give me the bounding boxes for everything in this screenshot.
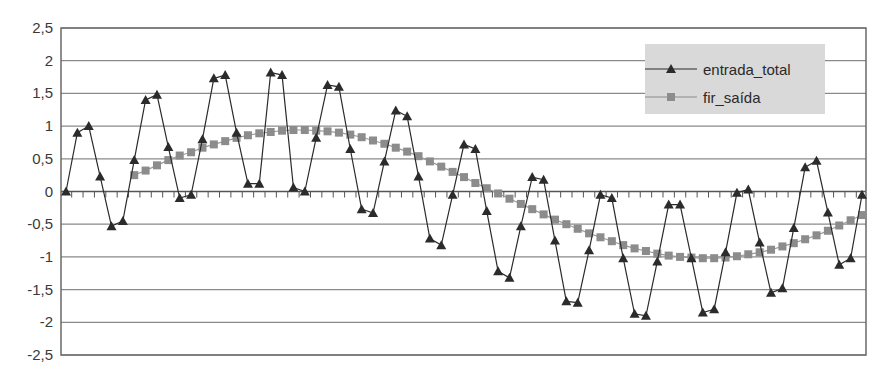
triangle-marker (402, 111, 412, 120)
triangle-marker (288, 183, 298, 192)
triangle-marker (527, 172, 537, 181)
triangle-marker (482, 206, 492, 215)
svg-text:2: 2 (45, 52, 53, 69)
svg-text:1,5: 1,5 (32, 84, 53, 101)
square-marker (176, 152, 184, 160)
svg-text:-1,5: -1,5 (27, 281, 53, 298)
triangle-marker (504, 273, 514, 282)
square-marker (494, 189, 502, 197)
triangle-marker (266, 67, 276, 76)
square-line-icon (645, 91, 697, 103)
square-marker (244, 131, 252, 139)
legend-item-entrada-total: entrada_total (645, 58, 791, 80)
square-marker (483, 184, 491, 192)
triangle-marker (709, 304, 719, 313)
square-marker (153, 161, 161, 169)
square-marker (426, 157, 434, 165)
triangle-marker (812, 156, 822, 165)
triangle-marker (414, 171, 424, 180)
square-marker (847, 216, 855, 224)
square-marker (210, 140, 218, 148)
square-marker (358, 133, 366, 141)
square-marker (710, 254, 718, 262)
triangle-marker (516, 221, 526, 230)
svg-text:2,5: 2,5 (32, 19, 53, 36)
svg-text:-2,5: -2,5 (27, 346, 53, 363)
triangle-marker (493, 266, 503, 275)
triangle-marker (197, 134, 207, 143)
triangle-marker (561, 296, 571, 305)
square-marker (528, 205, 536, 213)
triangle-marker (129, 155, 139, 164)
square-marker (301, 126, 309, 134)
triangle-marker (800, 162, 810, 171)
series-fir-saida (130, 126, 866, 262)
triangle-marker (721, 247, 731, 256)
svg-text:-1: -1 (40, 248, 53, 265)
triangle-marker (323, 80, 333, 89)
square-marker (517, 200, 525, 208)
svg-text:-0,5: -0,5 (27, 215, 53, 232)
triangle-marker (436, 240, 446, 249)
triangle-marker (652, 256, 662, 265)
square-marker (437, 163, 445, 171)
triangle-marker (152, 90, 162, 99)
square-marker (221, 137, 229, 145)
square-marker (767, 246, 775, 254)
triangle-marker (141, 95, 151, 104)
triangle-marker (345, 144, 355, 153)
square-marker (460, 173, 468, 181)
square-marker (324, 127, 332, 135)
triangle-marker (72, 128, 82, 137)
square-marker (278, 127, 286, 135)
square-marker (642, 247, 650, 255)
square-marker (449, 168, 457, 176)
triangle-line-icon (645, 63, 697, 75)
triangle-marker (368, 208, 378, 217)
triangle-marker (834, 260, 844, 269)
svg-text:0: 0 (45, 183, 53, 200)
legend: entrada_total fir_saída (645, 44, 825, 114)
legend-label-fir-saida: fir_saída (703, 89, 761, 106)
triangle-marker (755, 238, 765, 247)
square-marker (608, 237, 616, 245)
triangle-marker (163, 142, 173, 151)
square-marker (255, 129, 263, 137)
square-marker (744, 250, 752, 258)
triangle-marker (232, 128, 242, 137)
square-marker (699, 254, 707, 262)
square-marker (665, 252, 673, 260)
triangle-marker (584, 245, 594, 254)
square-marker (267, 128, 275, 136)
triangle-marker (823, 207, 833, 216)
square-marker (142, 167, 150, 175)
triangle-marker (630, 309, 640, 318)
triangle-marker (550, 236, 560, 245)
square-marker (733, 252, 741, 260)
triangle-marker (220, 70, 230, 79)
square-marker (540, 210, 548, 218)
legend-item-fir-saida: fir_saída (645, 86, 761, 108)
square-marker (505, 195, 513, 203)
square-marker (676, 253, 684, 261)
triangle-marker (106, 221, 116, 230)
y-axis-tick-labels: 2,521,510,50-0,5-1-1,5-2-2,5 (27, 19, 53, 363)
square-marker (392, 144, 400, 152)
square-marker (335, 129, 343, 137)
triangle-marker (118, 216, 128, 225)
square-marker (778, 242, 786, 250)
triangle-marker (391, 105, 401, 114)
triangle-marker (618, 253, 628, 262)
svg-text:1: 1 (45, 117, 53, 134)
square-marker (835, 222, 843, 230)
triangle-marker (95, 171, 105, 180)
square-marker (596, 233, 604, 241)
square-marker (653, 250, 661, 258)
triangle-marker (357, 204, 367, 213)
square-marker (801, 235, 809, 243)
legend-label-entrada-total: entrada_total (703, 61, 791, 78)
svg-text:0,5: 0,5 (32, 150, 53, 167)
triangle-marker (470, 144, 480, 153)
triangle-marker (425, 234, 435, 243)
square-marker (813, 231, 821, 239)
